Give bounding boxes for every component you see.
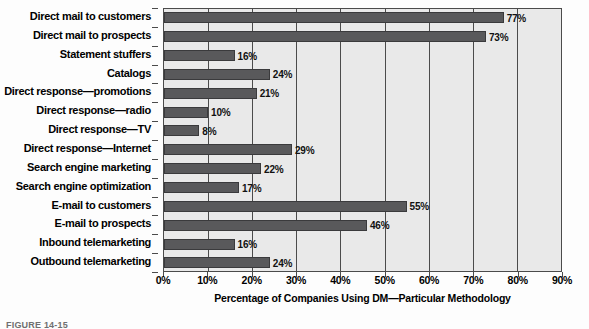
bar-row: 55% xyxy=(164,198,561,216)
category-label: E-mail to prospects xyxy=(55,215,151,233)
bar-value-label: 17% xyxy=(242,182,261,193)
y-axis-tick xyxy=(152,102,158,103)
bar: 8% xyxy=(164,125,199,136)
category-label: Search engine optimization xyxy=(16,178,151,196)
y-axis-tick xyxy=(152,27,158,28)
y-axis-tick xyxy=(152,215,158,216)
y-axis-tick xyxy=(152,121,158,122)
y-axis-tick xyxy=(152,234,158,235)
bar: 77% xyxy=(164,12,504,23)
bar-row: 8% xyxy=(164,122,561,140)
bar: 16% xyxy=(164,50,235,61)
y-axis-tick xyxy=(152,65,158,66)
x-axis-ticklabels: 0%10%20%30%40%50%60%70%80%90% xyxy=(0,274,589,290)
category-label: Direct mail to prospects xyxy=(33,27,151,45)
x-axis-ticklabel: 60% xyxy=(419,274,439,286)
category-label: Direct mail to customers xyxy=(30,8,151,26)
x-axis-ticklabel: 70% xyxy=(463,274,483,286)
figure-container: Direct mail to customersDirect mail to p… xyxy=(0,0,589,329)
bar-series: 77%73%16%24%21%10%8%29%22%17%55%46%16%24… xyxy=(164,9,561,271)
category-label: Inbound telemarketing xyxy=(39,234,151,252)
bar-row: 73% xyxy=(164,28,561,46)
bar: 46% xyxy=(164,220,367,231)
x-axis-ticklabel: 80% xyxy=(508,274,528,286)
category-label: Catalogs xyxy=(107,65,151,83)
bar-row: 77% xyxy=(164,9,561,27)
x-axis-ticklabel: 90% xyxy=(552,274,572,286)
bar-row: 24% xyxy=(164,254,561,272)
bar: 21% xyxy=(164,88,257,99)
bar-value-label: 16% xyxy=(238,239,257,250)
bar: 24% xyxy=(164,69,270,80)
bar-row: 24% xyxy=(164,66,561,84)
x-axis-ticklabel: 30% xyxy=(286,274,306,286)
bar-value-label: 46% xyxy=(370,220,389,231)
bar-row: 29% xyxy=(164,141,561,159)
bar-value-label: 22% xyxy=(264,163,283,174)
figure-caption: FIGURE 14-15 xyxy=(6,320,68,329)
category-label: Direct response—TV xyxy=(48,121,151,139)
bar-row: 16% xyxy=(164,235,561,253)
bar-row: 17% xyxy=(164,179,561,197)
x-axis-ticklabel: 50% xyxy=(375,274,395,286)
bar-value-label: 24% xyxy=(273,69,292,80)
bar: 16% xyxy=(164,239,235,250)
bar-value-label: 55% xyxy=(410,201,429,212)
bar-row: 22% xyxy=(164,160,561,178)
bar-value-label: 29% xyxy=(295,144,314,155)
bar-value-label: 8% xyxy=(202,125,216,136)
bar-value-label: 16% xyxy=(238,50,257,61)
y-axis-tick xyxy=(152,140,158,141)
y-axis-tick xyxy=(152,253,158,254)
bar: 29% xyxy=(164,144,292,155)
y-axis-tick xyxy=(152,46,158,47)
bar-row: 46% xyxy=(164,216,561,234)
x-axis-ticklabel: 10% xyxy=(197,274,217,286)
bar-row: 10% xyxy=(164,103,561,121)
x-axis-ticklabel: 20% xyxy=(242,274,262,286)
x-axis-ticklabel: 40% xyxy=(330,274,350,286)
bar-value-label: 24% xyxy=(273,257,292,268)
category-axis: Direct mail to customersDirect mail to p… xyxy=(0,8,158,272)
category-label: Direct response—promotions xyxy=(4,83,151,101)
bar-value-label: 10% xyxy=(211,107,230,118)
category-label: Outbound telemarketing xyxy=(30,253,151,271)
bar: 22% xyxy=(164,163,261,174)
category-label: E-mail to customers xyxy=(52,197,151,215)
y-axis-tick xyxy=(152,197,158,198)
bar: 10% xyxy=(164,107,208,118)
category-label: Statement stuffers xyxy=(60,46,151,64)
y-axis-tick xyxy=(152,83,158,84)
x-axis-ticklabel: 0% xyxy=(156,274,171,286)
bar: 17% xyxy=(164,182,239,193)
x-axis-title: Percentage of Companies Using DM—Particu… xyxy=(163,292,562,304)
bar: 24% xyxy=(164,257,270,268)
bar-row: 21% xyxy=(164,84,561,102)
bar-value-label: 73% xyxy=(489,31,508,42)
category-label: Search engine marketing xyxy=(27,159,151,177)
category-label: Direct response—radio xyxy=(36,102,151,120)
y-axis-tick xyxy=(152,159,158,160)
y-axis-tick xyxy=(152,272,158,273)
plot-area: 77%73%16%24%21%10%8%29%22%17%55%46%16%24… xyxy=(163,8,562,272)
bar: 55% xyxy=(164,201,407,212)
y-axis-tick xyxy=(152,8,158,9)
category-label: Direct response—Internet xyxy=(24,140,151,158)
bar-row: 16% xyxy=(164,47,561,65)
bar: 73% xyxy=(164,31,486,42)
y-axis-tick xyxy=(152,178,158,179)
bar-value-label: 77% xyxy=(507,12,526,23)
bar-value-label: 21% xyxy=(260,88,279,99)
